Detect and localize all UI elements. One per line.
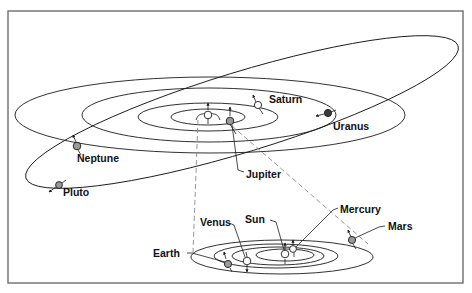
uranus-label: Uranus [333, 120, 369, 132]
venus-icon [243, 257, 251, 265]
sun-icon [281, 250, 289, 258]
sun-outer-icon [204, 111, 212, 119]
neptune-label: Neptune [77, 152, 119, 164]
mars-icon [348, 236, 355, 243]
saturn-label: Saturn [269, 93, 302, 105]
jupiter-icon [226, 117, 234, 125]
earth-icon [224, 260, 231, 267]
mercury-icon [290, 246, 297, 253]
mars-label: Mars [388, 220, 413, 232]
pluto-icon [56, 182, 63, 189]
uranus-icon [324, 109, 331, 116]
pluto-label: Pluto [63, 186, 89, 198]
solar-system-diagram: Jupiter Saturn Uranus Neptune Pluto [0, 0, 472, 293]
jupiter-label: Jupiter [246, 168, 281, 180]
earth-label: Earth [153, 247, 180, 259]
mercury-label: Mercury [340, 203, 381, 215]
venus-label: Venus [200, 216, 231, 228]
neptune-icon [73, 142, 81, 150]
sun-label: Sun [245, 213, 265, 225]
saturn-icon [254, 101, 261, 108]
